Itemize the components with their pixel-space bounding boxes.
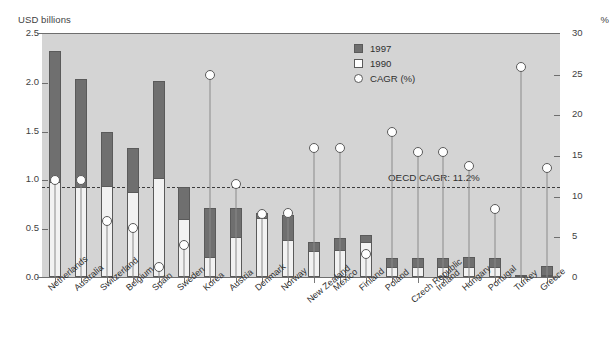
cagr-stem: [54, 179, 55, 277]
bar-group: [275, 34, 301, 277]
y-axis-tickmark: [37, 33, 42, 34]
bar-group: [327, 34, 353, 277]
bar-group: [223, 34, 249, 277]
cagr-marker: [283, 208, 293, 218]
plot-inner: OECD CAGR: 11.2%: [42, 34, 560, 277]
y2-axis-tick-label: 25: [572, 68, 583, 79]
y-axis-tick-label: 1.5: [15, 125, 39, 136]
cagr-stem: [262, 213, 263, 277]
cagr-marker: [154, 262, 164, 272]
chart-figure: USD billions % OECD CAGR: 11.2% 19971990…: [0, 0, 615, 355]
cagr-stem: [313, 147, 314, 277]
y-axis-tickmark: [37, 277, 42, 278]
cagr-stem: [391, 131, 392, 277]
cagr-marker: [205, 70, 215, 80]
legend-item-label: 1990: [370, 58, 391, 69]
cagr-marker: [438, 147, 448, 157]
bar-group: [68, 34, 94, 277]
cagr-marker: [387, 127, 397, 137]
cagr-marker: [179, 240, 189, 250]
bar-group: [120, 34, 146, 277]
cagr-stem: [210, 74, 211, 277]
bar-group: [197, 34, 223, 277]
y2-axis-tick-label: 0: [572, 271, 577, 282]
bar-group: [482, 34, 508, 277]
bar-group: [431, 34, 457, 277]
cagr-marker: [102, 216, 112, 226]
cagr-marker: [542, 163, 552, 173]
cagr-stem: [521, 66, 522, 277]
left-axis-unit-label: USD billions: [18, 14, 71, 25]
cagr-marker: [257, 209, 267, 219]
y2-axis-tick-label: 30: [572, 27, 583, 38]
y2-axis-tick-label: 15: [572, 149, 583, 160]
legend-item-label: CAGR (%): [370, 73, 415, 84]
bar-group: [42, 34, 68, 277]
right-axis-unit-label: %: [600, 14, 609, 25]
y-axis-tick-label: 2.5: [15, 27, 39, 38]
cagr-stem: [495, 208, 496, 277]
bar-group: [456, 34, 482, 277]
dark-square-icon: [354, 44, 363, 53]
cagr-marker: [361, 249, 371, 259]
bar-group: [172, 34, 198, 277]
cagr-stem: [339, 147, 340, 277]
bar-group: [249, 34, 275, 277]
bar-group: [508, 34, 534, 277]
cagr-stem: [417, 151, 418, 277]
bar-group: [301, 34, 327, 277]
legend-item-1997: 1997: [354, 41, 415, 56]
cagr-marker: [335, 143, 345, 153]
cagr-marker: [309, 143, 319, 153]
y2-axis-tick-label: 5: [572, 230, 577, 241]
y-axis-tick-label: 1.0: [15, 173, 39, 184]
bar-group: [146, 34, 172, 277]
white-circle-icon: [354, 74, 363, 83]
chart-legend: 19971990CAGR (%): [354, 41, 415, 86]
cagr-marker: [516, 62, 526, 72]
y-axis-tick-label: 0.5: [15, 222, 39, 233]
cagr-stem: [132, 227, 133, 277]
x-axis-tickmark: [314, 278, 315, 283]
y2-axis-tick-label: 20: [572, 108, 583, 119]
cagr-marker: [464, 161, 474, 171]
bar-group: [94, 34, 120, 277]
cagr-stem: [288, 212, 289, 277]
cagr-marker: [128, 223, 138, 233]
cagr-marker: [76, 175, 86, 185]
cagr-stem: [443, 151, 444, 277]
legend-item-1990: 1990: [354, 56, 415, 71]
y-axis-tick-label: 2.0: [15, 76, 39, 87]
bar-group: [534, 34, 560, 277]
cagr-stem: [236, 183, 237, 277]
x-axis-tickmark: [418, 278, 419, 283]
plot-area: OECD CAGR: 11.2%: [42, 33, 560, 277]
cagr-stem: [547, 167, 548, 277]
cagr-marker: [231, 179, 241, 189]
cagr-marker: [50, 175, 60, 185]
cagr-marker: [413, 147, 423, 157]
legend-item-label: 1997: [370, 43, 391, 54]
y-axis-tick-label: 0.0: [15, 271, 39, 282]
y2-axis-tick-label: 10: [572, 190, 583, 201]
cagr-stem: [469, 165, 470, 277]
cagr-stem: [106, 220, 107, 277]
legend-item-cagr: CAGR (%): [354, 71, 415, 86]
white-square-icon: [354, 59, 363, 68]
cagr-marker: [490, 204, 500, 214]
